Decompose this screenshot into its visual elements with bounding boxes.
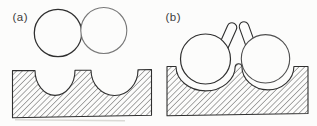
substrate-a-hatched-block: [13, 70, 152, 118]
particle-a-left: [34, 9, 81, 56]
particle-b-left: [181, 34, 231, 84]
panel-a: (a): [13, 8, 152, 121]
particle-b-right: [241, 35, 289, 83]
sintering-diagram-figure: (a) (b): [0, 0, 317, 126]
scan-shadow-line: [15, 120, 125, 121]
panel-b: (b): [166, 11, 309, 116]
diagram-canvas: (a) (b): [0, 0, 317, 126]
particle-a-right: [81, 8, 127, 54]
panel-b-label: (b): [166, 11, 182, 23]
panel-a-label: (a): [13, 11, 29, 23]
